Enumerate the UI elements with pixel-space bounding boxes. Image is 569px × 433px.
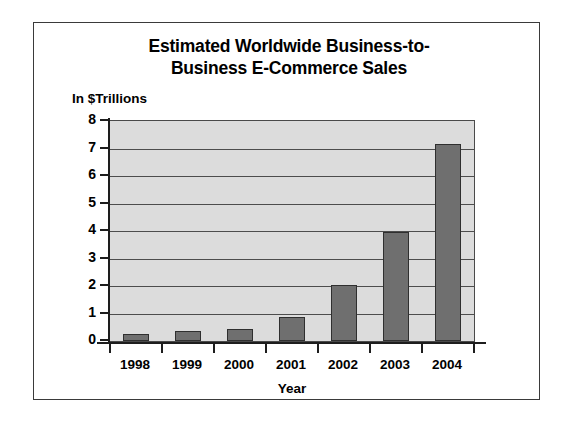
x-axis-tick-label: 1998 (107, 357, 163, 372)
y-axis-tick (100, 284, 109, 286)
chart-title: Estimated Worldwide Business-to- Busines… (64, 35, 514, 79)
x-axis-line (97, 342, 486, 344)
bar (123, 334, 149, 341)
x-axis-tick-label: 2002 (315, 357, 371, 372)
bars-group (110, 121, 474, 341)
bar (227, 329, 253, 341)
x-axis-tick (317, 344, 319, 353)
y-axis-units-label: In $Trillions (72, 91, 147, 106)
bar (175, 331, 201, 341)
y-axis-tick (100, 147, 109, 149)
y-axis-tick-label: 7 (70, 139, 96, 155)
bar (279, 317, 305, 341)
y-axis-tick (100, 257, 109, 259)
y-axis-tick-label: 4 (70, 221, 96, 237)
y-axis-tick-label: 5 (70, 194, 96, 210)
y-axis-tick-label: 8 (70, 111, 96, 127)
y-axis-tick (100, 229, 109, 231)
x-axis-tick (213, 344, 215, 353)
y-axis-tick (100, 312, 109, 314)
x-axis-tick-label: 1999 (159, 357, 215, 372)
x-axis-tick (109, 344, 111, 353)
x-axis-tick (473, 344, 475, 353)
y-axis-tick-label: 1 (70, 304, 96, 320)
x-axis-tick (161, 344, 163, 353)
y-axis-tick (100, 119, 109, 121)
x-axis-tick-label: 2003 (367, 357, 423, 372)
bar (435, 144, 461, 341)
x-axis-tick-label: 2004 (419, 357, 475, 372)
y-axis-tick (100, 202, 109, 204)
y-axis-line (108, 118, 110, 344)
x-axis-tick (369, 344, 371, 353)
y-axis-tick (100, 339, 109, 341)
plot-area (109, 120, 475, 342)
x-axis-tick-label: 2001 (263, 357, 319, 372)
chart-figure: Estimated Worldwide Business-to- Busines… (33, 22, 540, 400)
chart-title-line-2: Business E-Commerce Sales (64, 57, 514, 79)
bar (331, 285, 357, 341)
bar (383, 232, 409, 341)
x-axis-tick (421, 344, 423, 353)
y-axis-tick (100, 174, 109, 176)
x-axis-tick-label: 2000 (211, 357, 267, 372)
y-axis-tick-label: 3 (70, 249, 96, 265)
chart-title-line-1: Estimated Worldwide Business-to- (64, 35, 514, 57)
x-axis-tick (265, 344, 267, 353)
y-axis-tick-label: 6 (70, 166, 96, 182)
x-axis-title: Year (109, 381, 475, 396)
y-axis-tick-label: 2 (70, 276, 96, 292)
y-axis-tick-label: 0 (70, 331, 96, 347)
